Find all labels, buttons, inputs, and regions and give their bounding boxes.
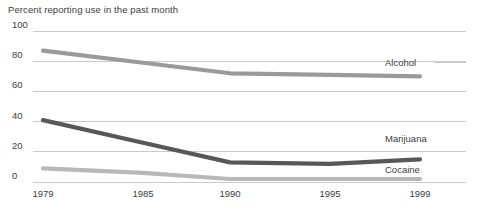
series-lines-group [43,51,420,179]
plot-area [0,0,477,212]
y-tick-label-0: 0 [12,170,17,181]
x-tick-label-1995: 1995 [305,188,355,199]
series-label-marijuana: Marijuana [385,133,427,144]
series-label-cocaine: Cocaine [385,164,420,175]
x-tick-label-1990: 1990 [205,188,255,199]
y-tick-label-20: 20 [12,140,23,151]
series-line-marijuana [43,120,420,164]
series-line-alcohol [43,51,420,77]
chart-svg [0,0,477,212]
x-tick-label-1985: 1985 [118,188,168,199]
x-tick-label-1979: 1979 [18,188,68,199]
x-tick-label-1999: 1999 [395,188,445,199]
chart-container: Percent reporting use in the past month … [0,0,477,212]
y-tick-label-100: 100 [12,19,28,30]
series-label-alcohol: Alcohol [385,57,416,68]
y-tick-label-40: 40 [12,110,23,121]
series-line-cocaine [43,168,420,179]
y-tick-label-80: 80 [12,49,23,60]
y-tick-label-60: 60 [12,79,23,90]
